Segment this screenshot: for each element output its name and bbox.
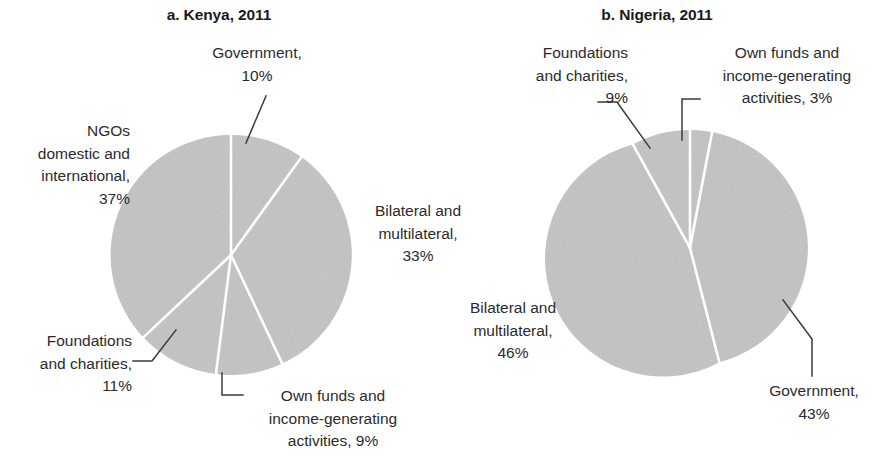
pie-label-nigeria-foundations: Foundations and charities, 9% (500, 42, 628, 110)
pie-label-nigeria-ownfunds: Own funds and income-generating activiti… (702, 42, 872, 110)
pie-label-kenya-ownfunds: Own funds and income-generating activiti… (240, 385, 426, 453)
pie-label-kenya-ngos: NGOs domestic and international, 37% (2, 120, 130, 210)
pie-label-kenya-foundations: Foundations and charities, 11% (0, 330, 132, 398)
panel-title-nigeria: b. Nigeria, 2011 (438, 6, 876, 24)
pie-chart-figure: a. Kenya, 2011 Government, 10% NGOs dome… (0, 0, 876, 462)
pie-label-nigeria-government: Government, 43% (752, 380, 876, 425)
panel-title-kenya: a. Kenya, 2011 (0, 6, 438, 24)
pie-label-nigeria-bilateral: Bilateral and multilateral, 46% (442, 297, 584, 365)
pie-label-kenya-government: Government, 10% (192, 42, 322, 87)
